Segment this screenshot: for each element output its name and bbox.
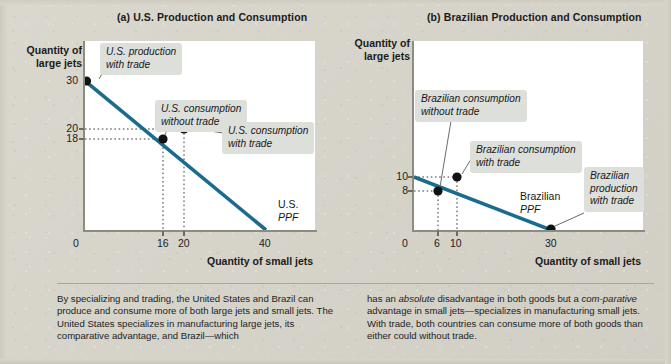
panel-a-title: (a) U.S. Production and Consumption bbox=[117, 11, 307, 23]
caption-text-right: has an absolute disadvantage in both goo… bbox=[367, 293, 655, 343]
point-brazil-consumption-with-trade bbox=[452, 172, 461, 181]
panel-a-x-axis-line bbox=[83, 230, 317, 232]
point-brazil-consumption-without-trade bbox=[433, 186, 442, 195]
callout-brazil-production-with-trade: Brazilian production with trade bbox=[584, 167, 644, 212]
us-ppf-label: U.S.PPF bbox=[278, 198, 298, 223]
panel-b-y-axis-title: Quantity of large jets bbox=[332, 37, 410, 62]
panel-b-xtickmark-6 bbox=[437, 231, 439, 236]
panel-a-ytickmark-18 bbox=[79, 138, 84, 140]
panel-a-xtick-0: 0 bbox=[73, 237, 79, 249]
page-edge-right bbox=[665, 0, 671, 364]
callout-us-production-with-trade: U.S. production with trade bbox=[100, 43, 182, 75]
panel-a-ytick-18: 18 bbox=[50, 132, 78, 144]
panel-a-ytick-30: 30 bbox=[50, 74, 78, 86]
panel-a-xtickmark-16 bbox=[162, 231, 164, 236]
panel-a-y-axis-line bbox=[83, 41, 85, 232]
panel-b-title: (b) Brazilian Production and Consumption bbox=[427, 11, 642, 23]
panel-b-xtick-6: 6 bbox=[434, 237, 440, 249]
panel-a-xtickmark-20 bbox=[183, 231, 185, 236]
panel-a-xtick-20: 20 bbox=[178, 237, 190, 249]
caption-divider bbox=[57, 283, 654, 284]
panel-a-y-axis-title: Quantity of large jets bbox=[0, 44, 82, 69]
panel-b-ytickmark-10 bbox=[408, 176, 413, 178]
panel-b-y-axis-line bbox=[412, 41, 414, 232]
panel-a-xtick-40: 40 bbox=[259, 237, 271, 249]
panel-b-xtick-0: 0 bbox=[402, 237, 408, 249]
panel-b-x-axis-line bbox=[412, 230, 645, 232]
panel-b-xtick-10: 10 bbox=[450, 237, 462, 249]
panel-b-ytick-8: 8 bbox=[380, 184, 408, 196]
point-us-consumption-without-trade bbox=[158, 134, 167, 143]
panel-b-xtick-30: 30 bbox=[545, 237, 557, 249]
panel-b-ytick-10: 10 bbox=[380, 170, 408, 182]
caption-column-left: By specializing and trading, the United … bbox=[57, 293, 345, 343]
panel-b-x-axis-title: Quantity of small jets bbox=[535, 255, 641, 267]
caption: By specializing and trading, the United … bbox=[57, 293, 657, 343]
figure-container: (a) U.S. Production and Consumption Quan… bbox=[0, 0, 671, 364]
page-edge-bottom bbox=[0, 359, 671, 364]
callout-us-consumption-with-trade: U.S. consumption with trade bbox=[222, 122, 314, 154]
panel-a-x-axis-title: Quantity of small jets bbox=[207, 255, 313, 267]
caption-text-left: By specializing and trading, the United … bbox=[57, 293, 345, 343]
panel-a-xtick-16: 16 bbox=[157, 237, 169, 249]
page-edge-top bbox=[0, 0, 671, 5]
panel-a-ytickmark-20 bbox=[79, 128, 84, 130]
caption-column-right: has an absolute disadvantage in both goo… bbox=[367, 293, 655, 343]
brazil-ppf-label: BrazilianPPF bbox=[520, 190, 560, 215]
panel-b-xtickmark-10 bbox=[456, 231, 458, 236]
callout-brazil-consumption-without-trade: Brazilian consumption without trade bbox=[415, 90, 527, 122]
panel-b-ytickmark-8 bbox=[408, 190, 413, 192]
callout-brazil-consumption-with-trade: Brazilian consumption with trade bbox=[470, 141, 582, 173]
